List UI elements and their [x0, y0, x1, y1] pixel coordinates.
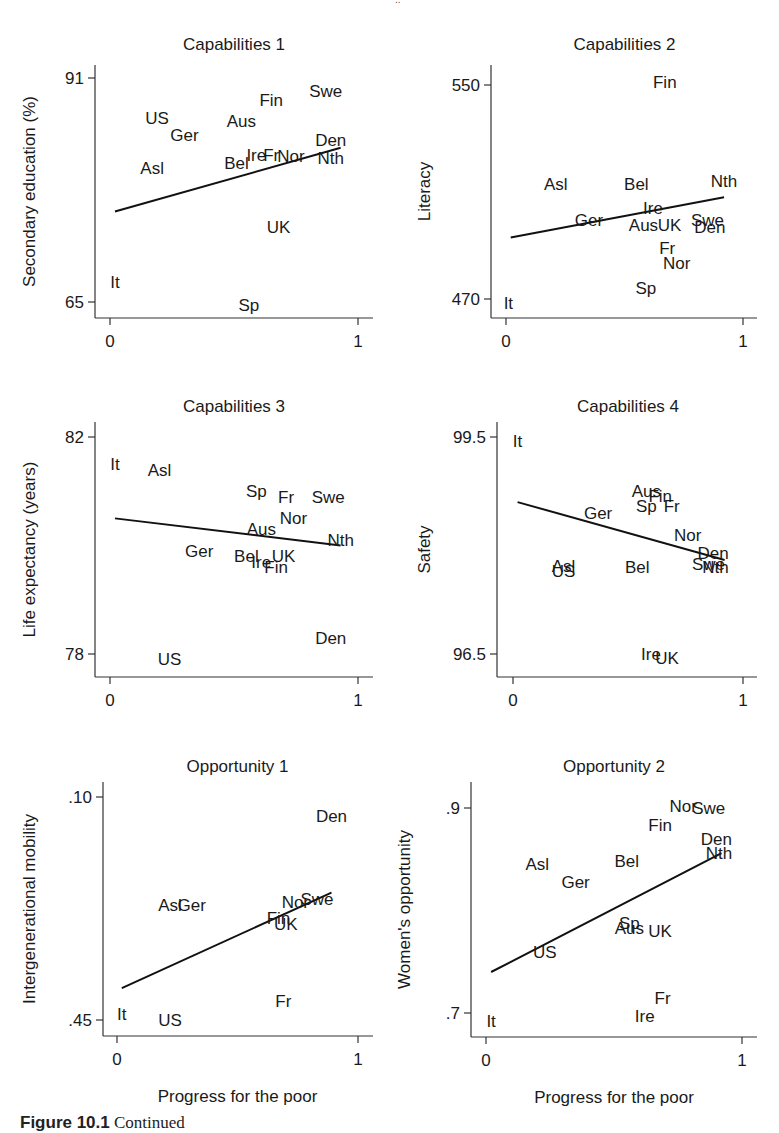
x-tick-label: 0	[501, 332, 510, 351]
country-label-ger: Ger	[185, 542, 214, 561]
y-tick-label: 96.5	[453, 645, 486, 664]
country-label-fin: Fin	[264, 558, 288, 577]
country-label-ger: Ger	[575, 211, 604, 230]
y-tick-label: 91	[65, 69, 84, 88]
country-label-bel: Bel	[224, 154, 249, 173]
y-axis-label: Life expectancy (years)	[20, 462, 39, 638]
figure-caption-label: Figure 10.1	[20, 1113, 110, 1132]
chart-title: Capabilities 4	[577, 397, 679, 416]
country-label-aus: Aus	[227, 112, 256, 131]
country-label-sp: Sp	[636, 497, 657, 516]
country-label-bel: Bel	[625, 558, 650, 577]
country-label-fin: Fin	[259, 91, 283, 110]
country-label-nth: Nth	[711, 172, 737, 191]
chart-panel-4: Capabilities 496.599.501SafetyItAusFinSp…	[415, 397, 757, 710]
country-label-nth: Nth	[327, 531, 353, 550]
country-label-fr: Fr	[655, 989, 671, 1008]
x-tick-label: 1	[738, 691, 747, 710]
country-label-ire: Ire	[643, 199, 663, 218]
country-label-us: US	[158, 650, 182, 669]
chart-title: Opportunity 2	[563, 757, 665, 776]
chart-panel-2: Capabilities 247055001LiteracyFinAslBelN…	[415, 35, 757, 351]
country-label-ger: Ger	[561, 873, 590, 892]
figure-caption-text: Continued	[114, 1113, 185, 1132]
country-label-aus: Aus	[247, 520, 276, 539]
country-label-swe: Swe	[300, 890, 333, 909]
country-label-sp: Sp	[238, 296, 259, 315]
country-label-nth: Nth	[706, 844, 732, 863]
country-label-asl: Asl	[525, 855, 549, 874]
country-label-swe: Swe	[309, 82, 342, 101]
y-tick-label: 550	[452, 76, 480, 95]
chart-panel-3: Capabilities 3788201Life expectancy (yea…	[20, 397, 373, 710]
chart-title: Capabilities 3	[183, 397, 285, 416]
y-tick-label: .7	[446, 1004, 460, 1023]
country-label-nor: Nor	[674, 526, 702, 545]
country-label-it: It	[504, 294, 514, 313]
country-label-sp: Sp	[635, 279, 656, 298]
country-label-it: It	[110, 455, 120, 474]
chart-title: Capabilities 1	[183, 35, 285, 54]
country-label-bel: Bel	[624, 175, 649, 194]
chart-title: Opportunity 1	[186, 757, 288, 776]
y-tick-label: 82	[65, 428, 84, 447]
y-tick-label: 99.5	[453, 428, 486, 447]
country-label-us: US	[145, 109, 169, 128]
y-axis-label: Literacy	[415, 161, 434, 221]
country-label-us: US	[552, 562, 576, 581]
country-label-it: It	[513, 432, 523, 451]
y-tick-label: 78	[65, 645, 84, 664]
y-tick-label: .45	[68, 1011, 92, 1030]
country-label-us: US	[158, 1011, 182, 1030]
x-tick-label: 0	[105, 332, 114, 351]
country-label-it: It	[110, 273, 120, 292]
country-label-uk: UK	[655, 649, 679, 668]
country-label-bel: Bel	[615, 852, 640, 871]
country-label-fr: Fr	[664, 497, 680, 516]
country-label-swe: Swe	[692, 799, 725, 818]
country-label-it: It	[486, 1012, 496, 1031]
y-axis-label: Women's opportunity	[395, 830, 414, 989]
x-tick-label: 1	[353, 691, 362, 710]
country-label-nor: Nor	[663, 254, 691, 273]
country-label-fin: Fin	[648, 816, 672, 835]
country-label-nor: Nor	[277, 147, 305, 166]
y-axis-label: Safety	[415, 525, 434, 574]
x-tick-label: 0	[105, 691, 114, 710]
country-label-uk: UK	[267, 218, 291, 237]
country-label-ger: Ger	[584, 504, 613, 523]
country-label-nth: Nth	[702, 558, 728, 577]
country-label-aus: Aus	[629, 216, 658, 235]
x-tick-label: 0	[112, 1050, 121, 1069]
y-tick-label: .9	[446, 799, 460, 818]
country-label-fr: Fr	[278, 488, 294, 507]
country-label-ger: Ger	[178, 896, 207, 915]
x-tick-label: 1	[353, 1050, 362, 1069]
country-label-uk: UK	[274, 915, 298, 934]
country-label-den: Den	[315, 131, 346, 150]
y-axis-label: Secondary education (%)	[20, 96, 39, 287]
chart-panel-5: Opportunity 1.45.1001Intergenerational m…	[20, 757, 373, 1106]
x-axis-label: Progress for the poor	[158, 1087, 318, 1106]
country-label-ger: Ger	[170, 126, 199, 145]
x-tick-label: 1	[737, 1051, 746, 1070]
country-label-nor: Nor	[280, 509, 308, 528]
x-axis-label: Progress for the poor	[534, 1088, 694, 1107]
country-label-uk: UK	[648, 922, 672, 941]
x-tick-label: 1	[353, 332, 362, 351]
country-label-it: It	[117, 1005, 127, 1024]
country-label-swe: Swe	[312, 488, 345, 507]
country-label-us: US	[533, 943, 557, 962]
country-label-ire: Ire	[635, 1007, 655, 1026]
y-tick-label: 65	[65, 293, 84, 312]
country-label-aus: Aus	[615, 919, 644, 938]
x-tick-label: 0	[481, 1051, 490, 1070]
x-tick-label: 1	[738, 332, 747, 351]
chart-panel-6: Opportunity 2.7.901Women's opportunityPr…	[395, 757, 757, 1107]
country-label-nth: Nth	[317, 149, 343, 168]
y-tick-label: .10	[68, 788, 92, 807]
y-axis-label: Intergenerational mobility	[20, 814, 39, 1004]
country-label-sp: Sp	[246, 482, 267, 501]
country-label-den: Den	[316, 807, 347, 826]
